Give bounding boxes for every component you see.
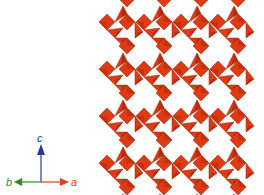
polyhedra-unit <box>173 53 217 101</box>
polyhedra-unit <box>173 100 217 148</box>
c-axis-arrow-icon <box>37 144 45 155</box>
polyhedra-unit <box>99 147 143 195</box>
polyhedra-unit <box>99 6 143 54</box>
polyhedra-unit <box>136 6 180 54</box>
c-axis-label: c <box>37 133 43 144</box>
polyhedra-unit <box>99 53 143 101</box>
polyhedra-unit <box>173 6 217 54</box>
polyhedra-unit <box>210 147 254 195</box>
polyhedra-unit <box>99 100 143 148</box>
polyhedra-unit <box>136 100 180 148</box>
polyhedra-unit <box>210 53 254 101</box>
polyhedra-unit <box>136 53 180 101</box>
a-axis-label: a <box>71 177 77 188</box>
polyhedra-unit <box>173 0 217 7</box>
b-axis-arrow-icon <box>14 178 22 186</box>
b-axis-label: b <box>6 177 12 188</box>
polyhedra-unit <box>210 194 254 195</box>
polyhedra-unit <box>210 0 254 7</box>
polyhedra-unit <box>210 100 254 148</box>
polyhedra-unit <box>136 0 180 7</box>
polyhedra-unit <box>136 147 180 195</box>
polyhedra-unit <box>210 6 254 54</box>
polyhedra-unit <box>136 194 180 195</box>
a-axis-arrow-icon <box>60 178 69 186</box>
polyhedra-unit <box>173 147 217 195</box>
polyhedra-unit <box>99 0 143 7</box>
polyhedra-unit <box>99 194 143 195</box>
polyhedra-unit <box>173 194 217 195</box>
